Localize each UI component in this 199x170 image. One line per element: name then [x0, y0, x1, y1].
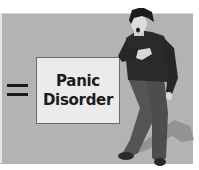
panic-disorder-label-box: Panic Disorder	[36, 57, 120, 124]
equals-sign-bottom-bar	[7, 93, 28, 96]
label-line-2: Disorder	[43, 91, 113, 110]
equals-sign-top-bar	[7, 84, 28, 87]
panel-left-edge	[0, 13, 2, 163]
label-line-1: Panic	[56, 72, 100, 91]
person-clutching-chest-icon	[112, 8, 199, 168]
